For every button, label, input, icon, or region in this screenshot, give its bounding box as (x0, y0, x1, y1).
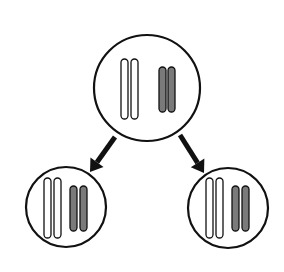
light-chromosome (44, 178, 51, 238)
dark-chromosome (70, 186, 77, 231)
cell-membrane (94, 35, 200, 141)
dark-chromosome (80, 186, 87, 231)
cell-parent (94, 35, 200, 141)
light-chromosome (216, 178, 223, 238)
arrow-right (180, 135, 204, 173)
light-chromosome (121, 59, 128, 119)
arrow-shaft (180, 135, 198, 163)
cell-daughter-right (188, 168, 268, 248)
light-chromosome (206, 178, 213, 238)
cell-daughter-left (26, 167, 106, 247)
dark-chromosome (232, 186, 239, 231)
arrow-left (90, 137, 115, 172)
diagram-canvas (0, 0, 284, 272)
cells (26, 35, 268, 248)
dark-chromosome (168, 67, 175, 112)
dark-chromosome (242, 186, 249, 231)
dark-chromosome (159, 67, 166, 112)
cell-membrane (188, 168, 268, 248)
cell-membrane (26, 167, 106, 247)
cell-division-diagram (0, 0, 284, 272)
light-chromosome (54, 178, 61, 238)
arrow-shaft (97, 137, 115, 162)
light-chromosome (131, 59, 138, 119)
